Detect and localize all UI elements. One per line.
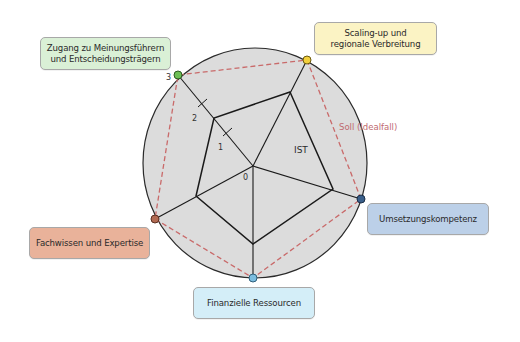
tick-label-1: 1 <box>218 143 223 152</box>
tick-label-0: 0 <box>243 173 248 182</box>
ist-label: IST <box>294 145 308 155</box>
dot-finanziell <box>249 274 257 282</box>
label-finanziell: Finanzielle Ressourcen <box>193 287 315 319</box>
tick-label-2: 2 <box>192 114 197 123</box>
label-scaling: Scaling-up und regionale Verbreitung <box>314 22 437 55</box>
dot-zugang <box>174 71 182 79</box>
label-umsetzung: Umsetzungskompetenz <box>367 203 489 235</box>
dot-fachwissen <box>151 215 159 223</box>
soll-label: Soll (Idealfall) <box>339 122 397 132</box>
dot-umsetzung <box>357 195 365 203</box>
label-zugang: Zugang zu Meinungsführern und Entscheidu… <box>40 37 171 70</box>
dot-scaling <box>303 56 311 64</box>
label-fachwissen: Fachwissen und Expertise <box>29 227 150 259</box>
tick-label-3: 3 <box>166 73 171 82</box>
